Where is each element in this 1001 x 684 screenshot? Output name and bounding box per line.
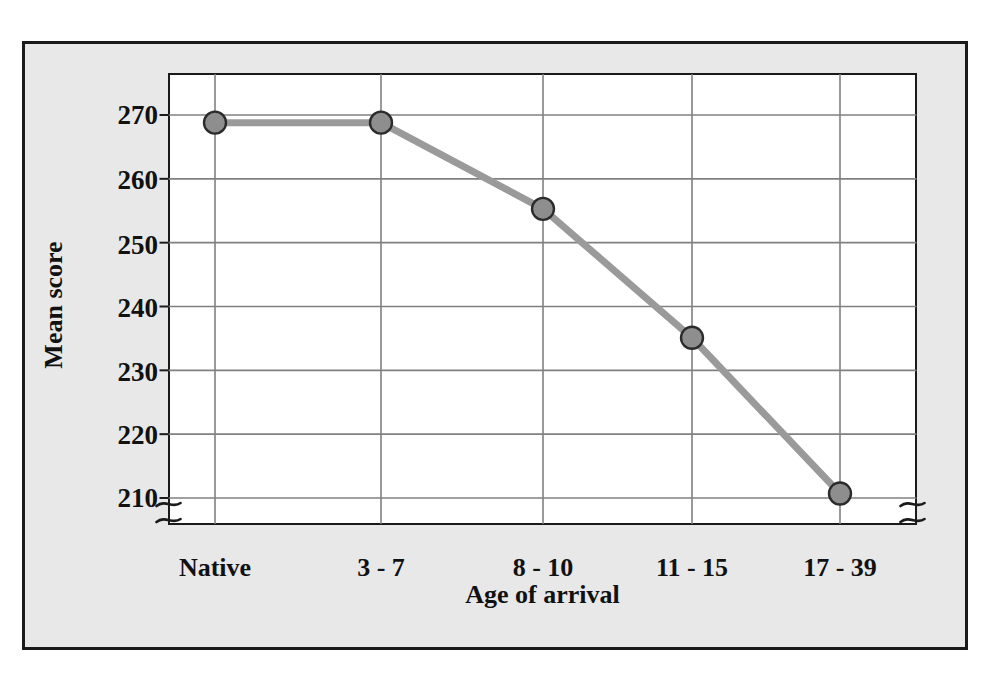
x-tick-label-native: Native: [179, 553, 251, 583]
plot-area: [168, 73, 917, 525]
y-tick-label-group: 270 260 250 240 230 220 210: [80, 0, 158, 684]
y-tick-label-250: 250: [118, 232, 159, 259]
x-axis-title: Age of arrival: [168, 580, 917, 610]
y-axis-title: Mean score: [39, 225, 69, 385]
x-tick-label-8-10: 8 - 10: [513, 553, 574, 583]
y-tick-label-270: 270: [118, 102, 159, 129]
x-tick-label-11-15: 11 - 15: [656, 553, 728, 583]
y-tick-label-240: 240: [118, 295, 159, 322]
x-tick-label-17-39: 17 - 39: [803, 553, 877, 583]
y-tick-label-260: 260: [118, 167, 159, 194]
y-tick-label-220: 220: [118, 422, 159, 449]
y-tick-label-230: 230: [118, 359, 159, 386]
x-tick-label-3-7: 3 - 7: [357, 553, 405, 583]
figure-root: 270 260 250 240 230 220 210 Native 3 - 7…: [0, 0, 1001, 684]
y-tick-label-210: 210: [118, 485, 159, 512]
